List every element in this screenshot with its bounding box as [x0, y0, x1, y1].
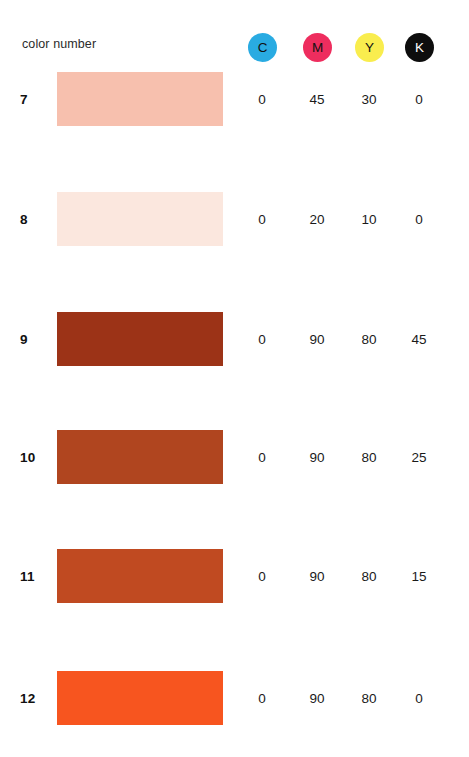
value-c: 0	[242, 671, 282, 725]
ink-circle-cyan: C	[248, 33, 277, 62]
color-swatch	[57, 671, 223, 725]
value-m: 90	[297, 549, 337, 603]
ink-circle-magenta: M	[303, 33, 332, 62]
value-k: 15	[399, 549, 439, 603]
value-y: 80	[349, 671, 389, 725]
value-y: 80	[349, 430, 389, 484]
value-c: 0	[242, 312, 282, 366]
value-k: 0	[399, 192, 439, 246]
ink-circle-black: K	[405, 33, 434, 62]
color-swatch	[57, 192, 223, 246]
value-m: 20	[297, 192, 337, 246]
value-m: 90	[297, 430, 337, 484]
row-number: 11	[20, 549, 35, 603]
chart-header: color number CMYK	[0, 28, 469, 68]
value-m: 90	[297, 671, 337, 725]
value-y: 80	[349, 549, 389, 603]
value-m: 90	[297, 312, 337, 366]
color-row: 100908025	[0, 430, 469, 484]
color-row: 8020100	[0, 192, 469, 246]
color-row: 12090800	[0, 671, 469, 725]
value-k: 0	[399, 72, 439, 126]
value-y: 10	[349, 192, 389, 246]
cmyk-color-chart: color number CMYK 7045300802010090908045…	[0, 0, 469, 757]
value-m: 45	[297, 72, 337, 126]
color-swatch	[57, 72, 223, 126]
ink-channel-legend: CMYK	[0, 28, 469, 68]
color-swatch	[57, 549, 223, 603]
color-row: 7045300	[0, 72, 469, 126]
value-c: 0	[242, 430, 282, 484]
value-c: 0	[242, 549, 282, 603]
value-c: 0	[242, 72, 282, 126]
value-k: 25	[399, 430, 439, 484]
value-k: 0	[399, 671, 439, 725]
value-k: 45	[399, 312, 439, 366]
value-y: 80	[349, 312, 389, 366]
row-number: 10	[20, 430, 35, 484]
color-row: 90908045	[0, 312, 469, 366]
value-c: 0	[242, 192, 282, 246]
value-y: 30	[349, 72, 389, 126]
row-number: 7	[20, 72, 28, 126]
color-swatch	[57, 430, 223, 484]
row-number: 9	[20, 312, 28, 366]
ink-circle-yellow: Y	[355, 33, 384, 62]
color-swatch	[57, 312, 223, 366]
row-number: 12	[20, 671, 35, 725]
color-row: 110908015	[0, 549, 469, 603]
row-number: 8	[20, 192, 28, 246]
